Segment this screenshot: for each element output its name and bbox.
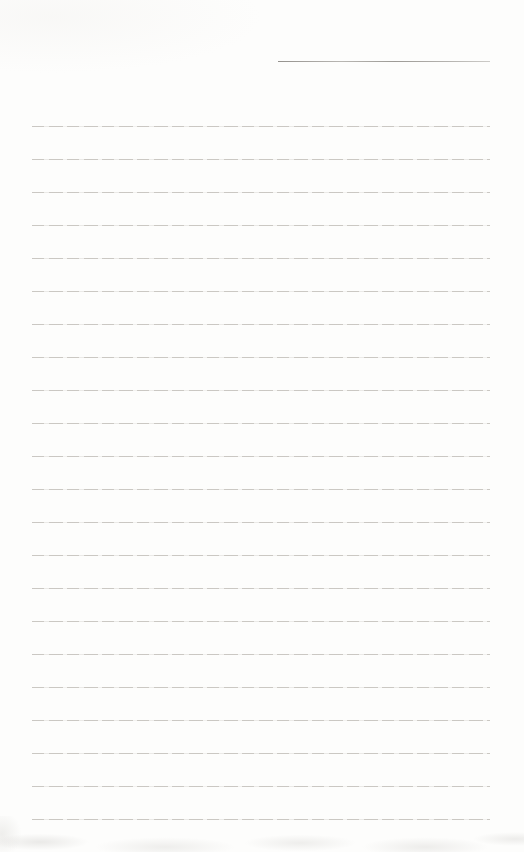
ruled-line — [32, 126, 490, 127]
ruled-line — [32, 225, 490, 226]
ruled-line — [32, 291, 490, 292]
ruled-line — [32, 192, 490, 193]
ruled-line — [32, 324, 490, 325]
ruled-line — [32, 720, 490, 721]
ruled-lines-container — [0, 0, 524, 852]
ruled-line — [32, 786, 490, 787]
ruled-line — [32, 621, 490, 622]
ruled-line — [32, 588, 490, 589]
ruled-line — [32, 258, 490, 259]
ruled-line — [32, 489, 490, 490]
ruled-line — [32, 654, 490, 655]
ruled-line — [32, 357, 490, 358]
ruled-line — [32, 423, 490, 424]
ruled-line — [32, 390, 490, 391]
ruled-line — [32, 522, 490, 523]
ruled-line — [32, 687, 490, 688]
ruled-line — [32, 753, 490, 754]
ruled-line — [32, 159, 490, 160]
ruled-line — [32, 819, 490, 820]
notepad-page — [0, 0, 524, 852]
ruled-line — [32, 456, 490, 457]
ruled-line — [32, 555, 490, 556]
